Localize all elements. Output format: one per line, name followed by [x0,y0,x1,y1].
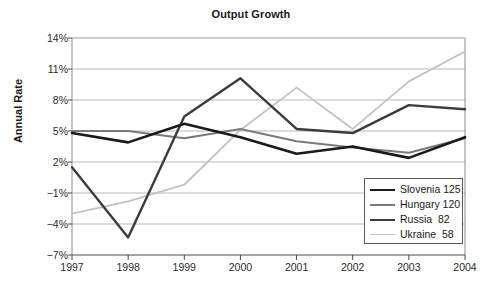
x-tick-label: 1998 [98,261,158,273]
x-tick-label: 2001 [267,261,327,273]
legend-item[interactable]: Hungary 120 [365,197,462,212]
legend-item[interactable]: Ukraine 58 [365,227,462,242]
legend-item-label: Russia 82 [400,214,450,225]
legend-swatch-icon [370,204,395,206]
x-tick-label: 2004 [435,261,495,273]
legend-swatch-icon [370,234,395,235]
chart-legend: Slovenia 125Hungary 120Russia 82Ukraine … [364,178,463,244]
x-tick-label: 2000 [210,261,270,273]
legend-swatch-icon [370,219,395,221]
x-tick-label: 2002 [323,261,383,273]
output-growth-chart: Output Growth Annual Rate 14%11%8%5%2%−1… [0,0,502,285]
legend-item-label: Hungary 120 [400,199,460,210]
x-tick-label: 1999 [154,261,214,273]
legend-swatch-icon [370,189,395,191]
legend-item-label: Ukraine 58 [400,229,454,240]
legend-item[interactable]: Russia 82 [365,212,462,227]
x-tick-label: 1997 [42,261,102,273]
legend-item[interactable]: Slovenia 125 [365,182,462,197]
legend-item-label: Slovenia 125 [400,184,461,195]
x-tick-label: 2003 [379,261,439,273]
